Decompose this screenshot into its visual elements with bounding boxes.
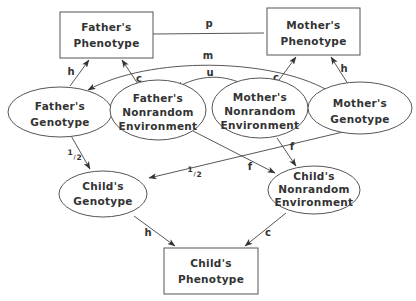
svg-text:2: 2 — [196, 170, 201, 179]
svg-text:Mother's: Mother's — [233, 91, 287, 103]
svg-text:Nonrandom: Nonrandom — [278, 183, 350, 195]
svg-text:1: 1 — [187, 165, 192, 174]
svg-text:Environment: Environment — [119, 120, 198, 132]
edge-label-u: u — [206, 67, 213, 78]
svg-text:Father's: Father's — [35, 100, 85, 112]
edge-h-child — [134, 216, 175, 246]
node-father-genotype: Father's Genotype — [8, 87, 112, 137]
node-father-nonrandom-environment: Father's Nonrandom Environment — [110, 80, 206, 140]
svg-text:Mother's: Mother's — [286, 19, 340, 31]
path-diagram: p m u h c c h 1 / 2 1 / 2 — [0, 0, 416, 301]
node-father-phenotype: Father's Phenotype — [60, 12, 153, 58]
edge-label-f-mother: f — [290, 141, 295, 152]
svg-text:Nonrandom: Nonrandom — [224, 105, 296, 117]
svg-text:Phenotype: Phenotype — [178, 273, 244, 285]
svg-text:Child's: Child's — [82, 180, 123, 192]
svg-text:Environment: Environment — [275, 196, 354, 208]
svg-text:Genotype: Genotype — [30, 116, 89, 128]
node-mother-nonrandom-environment: Mother's Nonrandom Environment — [212, 78, 308, 138]
node-mother-genotype: Mother's Genotype — [308, 82, 412, 134]
svg-text:2: 2 — [76, 153, 81, 162]
node-child-genotype: Child's Genotype — [59, 171, 147, 217]
svg-text:1: 1 — [67, 148, 72, 157]
svg-text:Child's: Child's — [190, 257, 231, 269]
edge-label-h-mother: h — [340, 63, 347, 74]
node-child-phenotype: Child's Phenotype — [164, 248, 258, 294]
svg-text:Father's: Father's — [133, 92, 183, 104]
svg-text:Father's: Father's — [81, 21, 131, 33]
edge-label-c-child: c — [265, 227, 271, 238]
svg-text:Nonrandom: Nonrandom — [122, 106, 194, 118]
edge-label-h-child: h — [144, 227, 151, 238]
svg-text:Phenotype: Phenotype — [280, 35, 346, 47]
svg-text:Mother's: Mother's — [333, 97, 387, 109]
edge-label-p: p — [205, 18, 212, 29]
edge-label-h-father: h — [67, 66, 74, 77]
svg-text:Phenotype: Phenotype — [73, 37, 139, 49]
edge-p-line — [153, 33, 264, 34]
edge-label-f-father: f — [248, 161, 253, 172]
svg-text:Genotype: Genotype — [73, 195, 132, 207]
edge-label-m: m — [203, 50, 213, 61]
edge-half-father — [70, 134, 90, 169]
svg-text:Environment: Environment — [221, 119, 300, 131]
node-mother-phenotype: Mother's Phenotype — [267, 8, 360, 55]
svg-text:Child's: Child's — [293, 170, 334, 182]
svg-text:Genotype: Genotype — [330, 113, 389, 125]
node-child-nonrandom-environment: Child's Nonrandom Environment — [268, 166, 360, 214]
